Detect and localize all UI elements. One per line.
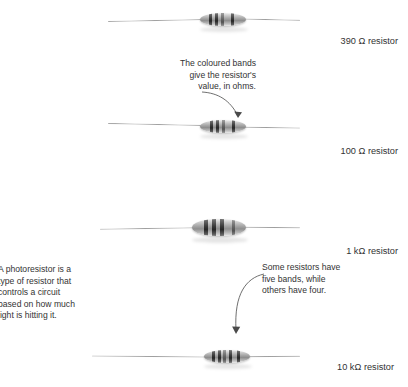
resistor-band-1 xyxy=(212,350,215,363)
resistor-1-kilohm-label: 1 kΩ resistor xyxy=(278,246,398,256)
resistor-band-5 xyxy=(237,350,240,363)
five-bands-leader-line xyxy=(226,272,268,338)
resistor-band-1 xyxy=(210,120,213,133)
resistor-390-ohm-label: 390 Ω resistor xyxy=(278,36,398,46)
resistor-1-kilohm xyxy=(100,212,300,242)
resistor-band-3 xyxy=(221,13,224,26)
resistor-band-1 xyxy=(204,219,208,236)
resistor-band-3 xyxy=(222,120,225,133)
resistor-body xyxy=(204,350,250,363)
resistor-band-1 xyxy=(209,13,212,26)
photoresistor-note-text: A photoresistor is a type of resistor th… xyxy=(0,264,118,322)
resistor-band-4 xyxy=(232,219,235,236)
resistor-lead-right xyxy=(242,227,300,229)
resistor-band-4 xyxy=(229,350,232,363)
intro-note-text: tric of f a or s. xyxy=(0,8,4,66)
resistor-body xyxy=(200,13,246,26)
resistor-lead-right xyxy=(244,356,300,358)
resistor-band-2 xyxy=(212,219,216,236)
resistor-10-kilohm-label: 10 kΩ resistor xyxy=(274,362,394,372)
resistor-band-2 xyxy=(215,13,218,26)
resistor-band-3 xyxy=(220,219,224,236)
resistor-band-4 xyxy=(231,13,234,26)
resistor-10-kilohm xyxy=(92,344,300,370)
resistor-lead-left xyxy=(100,227,195,230)
resistor-shadow xyxy=(192,237,248,243)
resistor-shadow xyxy=(204,364,252,369)
resistor-lead-left xyxy=(92,355,207,357)
resistor-lead-left xyxy=(108,19,206,22)
figure-canvas: tric of f a or s. 390 Ω resistor The col… xyxy=(0,0,408,387)
resistor-shadow xyxy=(200,27,248,32)
five-bands-note-text: Some resistors have five bands, while ot… xyxy=(262,262,396,297)
resistor-band-2 xyxy=(218,350,221,363)
resistor-100-ohm-label: 100 Ω resistor xyxy=(278,146,398,156)
resistor-body xyxy=(192,219,246,236)
resistor-band-4 xyxy=(232,120,235,133)
resistor-shadow xyxy=(200,134,248,139)
resistor-band-3 xyxy=(223,350,226,363)
resistor-lead-left xyxy=(108,123,206,127)
resistor-390-ohm xyxy=(108,8,300,34)
resistor-body xyxy=(200,120,246,133)
resistor-100-ohm xyxy=(108,114,300,140)
resistor-band-2 xyxy=(216,120,219,133)
